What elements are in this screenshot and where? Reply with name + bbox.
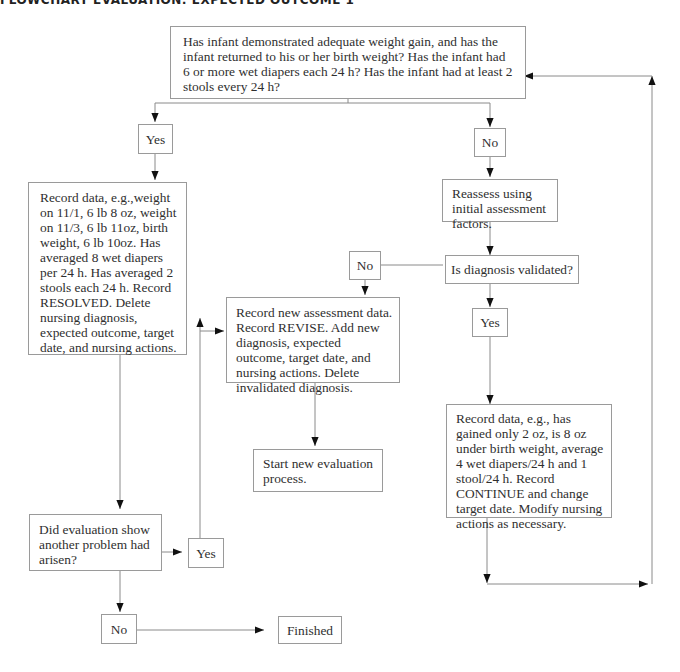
no-box-1: No (474, 128, 506, 157)
no-box-2: No (349, 251, 381, 280)
yes-box-1: Yes (138, 124, 173, 154)
yes-label-1: Yes (146, 132, 165, 147)
yes-label-2: Yes (480, 315, 499, 330)
reassess-box: Reassess using initial assessment factor… (442, 179, 558, 222)
no-label-1: No (482, 135, 498, 150)
no-label-3: No (111, 622, 127, 637)
yes-label-3: Yes (196, 546, 215, 561)
yes-box-3: Yes (188, 538, 224, 568)
finished-box: Finished (278, 616, 342, 644)
record-continue-box: Record data, e.g., has gained only 2 oz,… (446, 404, 612, 518)
start-new-text: Start new evaluation process. (263, 456, 373, 486)
no-box-3: No (101, 614, 137, 644)
record-revise-box: Record new assessment data. Record REVIS… (226, 297, 400, 383)
another-problem-text: Did evaluation show another problem had … (39, 522, 150, 567)
main-question-box: Has infant demonstrated adequate weight … (170, 26, 526, 99)
record-resolved-text: Record data, e.g.,weight on 11/1, 6 lb 8… (40, 190, 176, 355)
record-resolved-box: Record data, e.g.,weight on 11/1, 6 lb 8… (28, 182, 187, 355)
finished-label: Finished (287, 623, 333, 638)
no-label-2: No (357, 258, 373, 273)
diagnosis-validated-box: Is diagnosis validated? (445, 255, 579, 284)
record-revise-text: Record new assessment data. Record REVIS… (236, 305, 392, 395)
yes-box-2: Yes (472, 308, 508, 337)
main-question-text: Has infant demonstrated adequate weight … (183, 34, 512, 94)
diagnosis-validated-text: Is diagnosis validated? (451, 262, 573, 277)
another-problem-box: Did evaluation show another problem had … (29, 514, 162, 571)
start-new-box: Start new evaluation process. (253, 449, 383, 492)
record-continue-text: Record data, e.g., has gained only 2 oz,… (456, 411, 603, 531)
